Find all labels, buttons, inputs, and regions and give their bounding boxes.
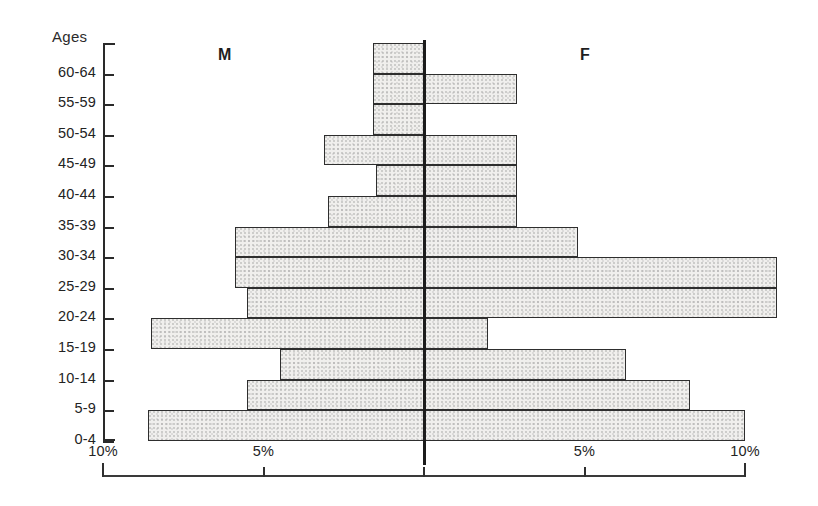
age-band-row-25-29 (0, 257, 818, 288)
bar-male-40-44 (376, 165, 424, 196)
plot-area (0, 43, 818, 441)
bar-female-30-34 (424, 227, 578, 258)
age-band-row-5-9 (0, 380, 818, 411)
age-band-row-55-59 (0, 74, 818, 105)
bar-female-0-4 (424, 410, 745, 441)
age-band-row-35-39 (0, 196, 818, 227)
age-band-row-50-54 (0, 104, 818, 135)
x-axis-tick-5% (584, 467, 586, 477)
x-axis-tick-10% (102, 463, 104, 477)
bar-male-30-34 (235, 227, 424, 258)
bar-female-25-29 (424, 257, 777, 288)
age-band-row-15-19 (0, 318, 818, 349)
bar-female-10-14 (424, 349, 626, 380)
male-series-label: M (218, 46, 232, 64)
x-axis-tick-label: 5% (253, 443, 274, 459)
bar-male-35-39 (328, 196, 424, 227)
x-axis-tick-5% (263, 467, 265, 477)
bar-male-60-64 (373, 43, 424, 74)
bar-male-0-4 (148, 410, 424, 441)
age-band-row-20-24 (0, 288, 818, 319)
bar-female-55-59 (424, 74, 517, 105)
age-band-row-45-49 (0, 135, 818, 166)
age-band-row-60-64 (0, 43, 818, 74)
x-axis-tick-label: 10% (730, 443, 760, 459)
x-axis-tick-label: 10% (88, 443, 118, 459)
x-axis-tick-center (423, 467, 425, 477)
bar-male-5-9 (247, 380, 424, 411)
age-band-row-30-34 (0, 227, 818, 258)
x-axis-tick-label: 5% (574, 443, 595, 459)
bar-male-25-29 (235, 257, 424, 288)
bar-female-15-19 (424, 318, 488, 349)
bar-female-45-49 (424, 135, 517, 166)
x-axis: 10%5%5%10% (0, 441, 818, 501)
bar-female-40-44 (424, 165, 517, 196)
age-band-row-0-4 (0, 410, 818, 441)
bar-male-15-19 (151, 318, 424, 349)
population-pyramid-figure: Ages 60-6455-5950-5445-4940-4435-3930-34… (0, 0, 818, 506)
bar-male-50-54 (373, 104, 424, 135)
x-axis-tick-10% (744, 463, 746, 477)
female-series-label: F (580, 46, 590, 64)
bar-male-10-14 (280, 349, 424, 380)
bar-female-20-24 (424, 288, 777, 319)
bar-female-5-9 (424, 380, 690, 411)
age-band-row-40-44 (0, 165, 818, 196)
bar-male-55-59 (373, 74, 424, 105)
center-axis-line (423, 40, 426, 465)
bar-male-45-49 (324, 135, 424, 166)
bar-female-35-39 (424, 196, 517, 227)
bar-male-20-24 (247, 288, 424, 319)
age-band-row-10-14 (0, 349, 818, 380)
